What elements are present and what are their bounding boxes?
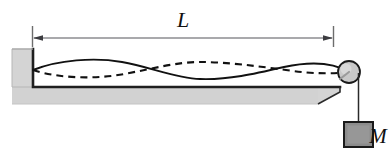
table-top-edge	[33, 49, 340, 87]
physics-diagram: L	[0, 0, 391, 151]
dimension-arrowhead-right	[323, 35, 333, 41]
diagram-canvas: L	[0, 0, 391, 151]
pulley-highlight	[341, 64, 352, 75]
pulley-group	[338, 61, 360, 83]
table-base-lower	[12, 87, 318, 104]
mass-label: M	[368, 124, 388, 148]
length-label: L	[176, 7, 189, 32]
dimension-arrowhead-left	[33, 35, 43, 41]
mass-block-inner-shade	[348, 126, 370, 144]
